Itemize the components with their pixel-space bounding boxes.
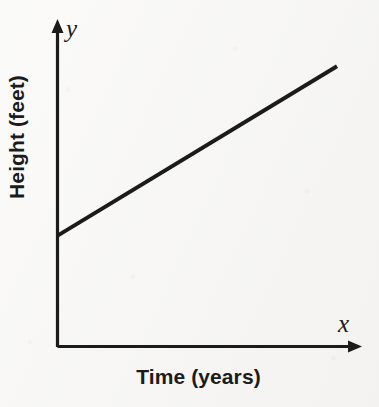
y-axis-arrowhead: [52, 19, 64, 33]
x-axis-letter: x: [338, 311, 349, 336]
x-axis-title: Time (years): [0, 365, 379, 389]
x-axis-arrowhead: [348, 341, 362, 353]
y-axis-title-container: Height (feet): [0, 67, 34, 207]
chart-figure: y x Time (years) Height (feet): [0, 0, 379, 407]
y-axis-letter: y: [66, 16, 77, 41]
y-axis-title: Height (feet): [5, 75, 29, 199]
data-line-series: [58, 66, 337, 235]
plot-area: [0, 0, 379, 407]
